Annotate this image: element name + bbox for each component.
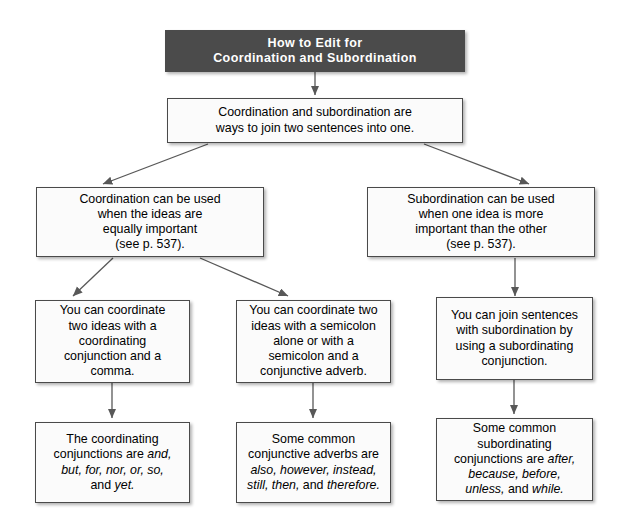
join-subordination-line-3: using a subordinating (456, 339, 574, 353)
title-banner-text: How to Edit for Coordination and Subordi… (165, 36, 465, 66)
coordinate-semicolon-line-4: semicolon and a (268, 349, 358, 363)
subordination-rule-line-1: Subordination can be used (407, 192, 554, 206)
node-intro-line-1: Coordination and subordination are (218, 105, 412, 119)
conjunctive-adverbs-list-text: Some commonconjunctive adverbs arealso, … (237, 432, 390, 493)
node-subordinating-conjunctions-list: Some commonsubordinatingconjunctions are… (436, 418, 593, 501)
node-coordinate-conjunction-text: You can coordinate two ideas with a coor… (36, 303, 189, 379)
node-coordinate-semicolon: You can coordinate two ideas with a semi… (236, 300, 391, 383)
node-conjunctive-adverbs-list: Some commonconjunctive adverbs arealso, … (236, 422, 391, 503)
coordination-rule-line-1: Coordination can be used (79, 192, 220, 206)
node-coordination-rule: Coordination can be used when the ideas … (36, 187, 264, 257)
title-banner: How to Edit for Coordination and Subordi… (165, 30, 465, 72)
coordinate-conjunction-line-4: conjunction and a (64, 349, 161, 363)
arrow-intro-to-subordination (424, 144, 529, 184)
coordinating-conjunctions-list-text: The coordinatingconjunctions are and,but… (36, 432, 189, 493)
join-subordination-line-2: with subordination by (456, 323, 572, 337)
coordinate-conjunction-line-1: You can coordinate (60, 303, 166, 317)
coordinate-semicolon-line-5: conjunctive adverb. (260, 364, 367, 378)
coordinate-conjunction-line-5: comma. (90, 364, 134, 378)
subordination-rule-line-4: (see p. 537). (446, 237, 516, 251)
coordinate-conjunction-line-2: two ideas with a (68, 319, 156, 333)
join-subordination-line-4: conjunction. (481, 354, 547, 368)
coordinate-semicolon-line-1: You can coordinate two (249, 303, 377, 317)
node-intro: Coordination and subordination are ways … (167, 98, 463, 143)
subordination-rule-line-3: important than the other (415, 222, 547, 236)
node-coordinate-conjunction: You can coordinate two ideas with a coor… (35, 300, 190, 383)
node-coordinate-semicolon-text: You can coordinate two ideas with a semi… (237, 303, 390, 379)
title-line-2: Coordination and Subordination (213, 51, 417, 65)
arrow-intro-to-coordination (103, 144, 208, 184)
title-line-1: How to Edit for (268, 36, 363, 50)
subordination-rule-line-2: when one idea is more (419, 207, 544, 221)
join-subordination-line-1: You can join sentences (451, 308, 578, 322)
coordinate-semicolon-line-2: ideas with a semicolon (251, 319, 376, 333)
arrow-coordination-to-semicolon (200, 258, 288, 296)
coordination-rule-line-3: equally important (103, 222, 197, 236)
coordinate-conjunction-line-3: coordinating (79, 334, 147, 348)
node-coordinating-conjunctions-list: The coordinatingconjunctions are and,but… (35, 422, 190, 503)
subordinating-conjunctions-list-text: Some commonsubordinatingconjunctions are… (437, 421, 592, 497)
coordination-rule-line-4: (see p. 537). (115, 237, 185, 251)
node-intro-line-2: ways to join two sentences into one. (216, 121, 414, 135)
node-intro-text: Coordination and subordination are ways … (168, 105, 462, 135)
node-subordination-rule-text: Subordination can be used when one idea … (368, 192, 594, 253)
node-join-subordination: You can join sentences with subordinatio… (436, 297, 593, 380)
node-join-subordination-text: You can join sentences with subordinatio… (437, 308, 592, 369)
flowchart-canvas: How to Edit for Coordination and Subordi… (0, 0, 629, 527)
node-subordination-rule: Subordination can be used when one idea … (367, 187, 595, 257)
node-coordination-rule-text: Coordination can be used when the ideas … (37, 192, 263, 253)
arrow-coordination-to-conjunction (73, 258, 113, 296)
coordination-rule-line-2: when the ideas are (98, 207, 203, 221)
coordinate-semicolon-line-3: alone or with a (273, 334, 354, 348)
